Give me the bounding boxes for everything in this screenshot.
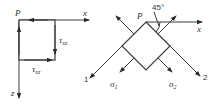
right-element: P x 45° 1 2 σ1 σ2 (84, 3, 208, 90)
stress-element-square (19, 20, 55, 60)
x-axis-label: x (82, 8, 87, 18)
stress-arrow-lower-right (158, 58, 172, 72)
shear-label-bottom: τxz (32, 64, 41, 75)
shear-label-right: τxz (59, 35, 68, 46)
left-element: P x z τxz τxz (10, 8, 89, 98)
origin-label-p-right: P (136, 11, 143, 21)
x-axis-label-right: x (196, 24, 201, 34)
origin-label-p: P (14, 8, 21, 18)
stress-arrow-upper-left (116, 16, 134, 34)
stress-arrow-upper-right (158, 16, 176, 34)
principal-stress-label-right: σ2 (169, 79, 176, 90)
direction-2-label: 2 (203, 73, 208, 82)
angle-label: 45° (152, 3, 164, 12)
principal-stress-label-left: σ1 (110, 79, 117, 90)
angle-leader (154, 12, 159, 26)
z-axis-label: z (10, 88, 15, 98)
stress-arrow-lower-left (120, 58, 134, 72)
direction-1-label: 1 (84, 75, 89, 84)
stress-diagram: P x z τxz τxz P x 45° 1 2 σ1 σ2 (0, 0, 216, 104)
